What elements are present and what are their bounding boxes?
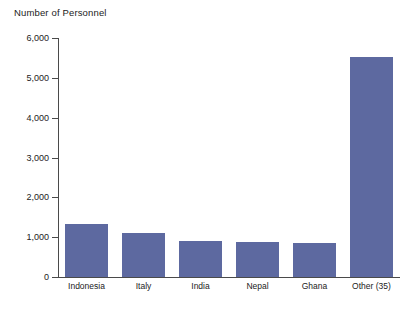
bar (293, 243, 336, 277)
chart-title: Number of Personnel (14, 7, 107, 18)
x-axis-line (58, 277, 400, 278)
bar-group: Other (35) (350, 38, 393, 277)
bar (350, 57, 393, 277)
y-axis-tick-label: 1,000 (26, 232, 49, 242)
y-axis-tick-label: 3,000 (26, 153, 49, 163)
x-axis-tick-label: Nepal (246, 281, 268, 291)
plot-area: 01,0002,0003,0004,0005,0006,000 Indonesi… (58, 38, 400, 277)
bar-group: Indonesia (65, 38, 108, 277)
x-axis-tick-label: Italy (136, 281, 152, 291)
bar (179, 241, 222, 277)
x-axis-tick-label: Indonesia (68, 281, 105, 291)
bar-group: Nepal (236, 38, 279, 277)
y-axis-tick-mark (52, 277, 59, 278)
bar (65, 224, 108, 277)
bar-group: India (179, 38, 222, 277)
bar (122, 233, 165, 277)
y-axis-tick-label: 5,000 (26, 73, 49, 83)
x-axis-tick-label: India (191, 281, 209, 291)
bar-group: Italy (122, 38, 165, 277)
y-axis-tick-label: 4,000 (26, 113, 49, 123)
y-axis-tick-label: 2,000 (26, 192, 49, 202)
bar-chart: Number of Personnel 01,0002,0003,0004,00… (0, 0, 416, 310)
y-axis-tick-label: 6,000 (26, 33, 49, 43)
bar-group: Ghana (293, 38, 336, 277)
x-axis-tick-label: Ghana (302, 281, 328, 291)
y-axis-tick-label: 0 (44, 272, 49, 282)
bar (236, 242, 279, 277)
x-axis-tick-label: Other (35) (352, 281, 391, 291)
bar-series: IndonesiaItalyIndiaNepalGhanaOther (35) (58, 38, 400, 277)
